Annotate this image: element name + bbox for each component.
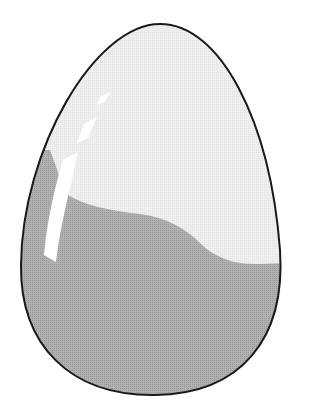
egg-illustration: Egg drawing with a light upper half, dar… [0, 0, 309, 410]
egg-icon [0, 0, 309, 410]
